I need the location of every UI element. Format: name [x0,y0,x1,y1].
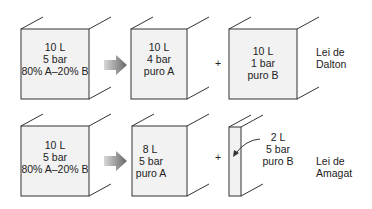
dalton-gas-b-box: 10 L 1 bar puro B [229,17,319,99]
amagat-mixture-volume: 10 L [45,139,66,151]
dalton-gas-a-volume: 10 L [149,41,170,53]
amagat-gas-b-volume: 2 L [271,131,286,143]
amagat-gas-b-pressure: 5 bar [266,143,290,155]
amagat-mixture-composition: 80% A–20% B [21,163,88,175]
dalton-mixture-box: 10 L 5 bar 80% A–20% B [21,17,111,99]
amagat-gas-b-composition: puro B [263,155,294,167]
dalton-mixture-composition: 80% A–20% B [21,65,88,77]
amagat-gas-a-composition: puro A [136,167,166,179]
amagat-law-label-line2: Amagat [316,167,352,179]
amagat-gas-a-volume: 8 L [143,143,158,155]
amagat-gas-b-box: 2 L 5 bar puro B [229,115,293,196]
gas-laws-diagram: 10 L 5 bar 80% A–20% B 10 L 4 bar puro A… [0,0,372,209]
amagat-gas-a-pressure: 5 bar [139,155,163,167]
dalton-gas-b-pressure: 1 bar [251,57,275,69]
dalton-arrow-icon [104,55,127,75]
dalton-mixture-pressure: 5 bar [43,53,67,65]
amagat-plus-sign: + [215,151,221,163]
dalton-gas-b-composition: puro B [248,69,279,81]
amagat-row: 10 L 5 bar 80% A–20% B 8 L 5 bar puro A … [21,114,352,196]
dalton-law-label-line1: Lei de [316,46,345,58]
dalton-gas-a-composition: puro A [144,65,174,77]
dalton-gas-a-pressure: 4 bar [147,53,171,65]
amagat-mixture-box: 10 L 5 bar 80% A–20% B [21,114,111,196]
dalton-mixture-volume: 10 L [45,41,66,53]
dalton-plus-sign: + [215,57,221,69]
dalton-law-label-line2: Dalton [316,58,347,70]
dalton-gas-b-volume: 10 L [253,45,274,57]
dalton-gas-a-box: 10 L 4 bar puro A [131,17,209,99]
amagat-arrow-icon [104,151,127,171]
dalton-row: 10 L 5 bar 80% A–20% B 10 L 4 bar puro A… [21,17,347,99]
amagat-gas-a-box: 8 L 5 bar puro A [132,114,209,196]
amagat-mixture-pressure: 5 bar [43,151,67,163]
amagat-law-label-line1: Lei de [316,155,345,167]
